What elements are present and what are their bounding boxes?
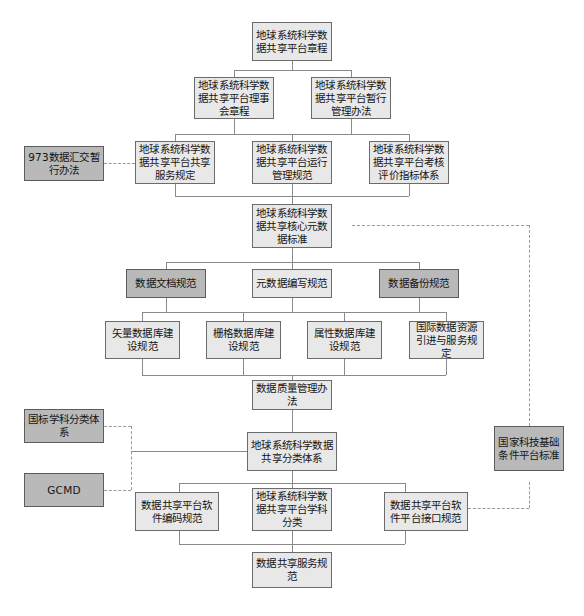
node-platform-discipline-classification[interactable]: 地球系统科学数据共享平台学科分类 (252, 488, 332, 531)
connector-to-n6 (292, 134, 293, 141)
connector-bus-level6 (142, 312, 446, 313)
node-raster-database-spec[interactable]: 栅格数据库建设规范 (206, 321, 281, 359)
connector-to-n13 (243, 312, 244, 321)
connector-bus-level2 (234, 70, 351, 71)
connector-dashed-n17 (104, 426, 131, 427)
node-label: 数据共享平台软件平台接口规范 (385, 499, 467, 525)
node-label: 地球系统科学数据共享平台暂行管理办法 (312, 79, 390, 118)
connector-dashed-n8-rail (352, 225, 529, 226)
connector-into-n8 (292, 196, 293, 204)
node-label: 地球系统科学数据共享平台理事会章程 (195, 79, 273, 118)
node-label: 地球系统科学数据共享核心元数据标准 (253, 207, 331, 246)
node-data-document-spec[interactable]: 数据文档规范 (126, 269, 206, 298)
connector-n5-down (175, 184, 176, 196)
node-label: 地球系统科学数据共享分类体系 (248, 439, 336, 465)
connector-bus-to-n16 (142, 375, 446, 376)
connector-n15-down (446, 359, 447, 375)
node-software-interface-spec[interactable]: 数据共享平台软件平台接口规范 (384, 492, 468, 531)
connector-into-n24 (292, 544, 293, 552)
node-label: 数据质量管理办法 (253, 382, 331, 408)
connector-to-n2 (234, 70, 235, 77)
connector-n16-down (292, 410, 293, 432)
connector-to-n12 (142, 312, 143, 321)
connector-n22-down (292, 531, 293, 544)
flowchart-canvas: 地球系统科学数据共享平台章程 地球系统科学数据共享平台理事会章程 地球系统科学数… (0, 0, 584, 616)
connector-dashed-bracket (131, 426, 132, 490)
connector-dashed-n4-n5 (104, 163, 135, 164)
node-sharing-service-rules[interactable]: 地球系统科学数据共享平台共享服务规定 (135, 141, 215, 184)
connector-n1-down (292, 61, 293, 70)
node-assessment-indicator-system[interactable]: 地球系统科学数据共享平台考核评价指标体系 (369, 141, 449, 184)
connector-bracket-to-n19 (131, 451, 247, 452)
connector-to-n7 (409, 134, 410, 141)
node-platform-charter[interactable]: 地球系统科学数据共享平台章程 (252, 22, 332, 61)
connector-n3-down (351, 119, 352, 134)
node-label: 国标学科分类体系 (25, 413, 103, 439)
node-international-data-resource-spec[interactable]: 国际数据资源引进与服务规定 (409, 321, 484, 359)
connector-to-n5 (175, 134, 176, 141)
node-national-discipline-classification[interactable]: 国标学科分类体系 (24, 409, 104, 443)
connector-to-n10 (292, 262, 293, 269)
node-label: 国际数据资源引进与服务规定 (410, 321, 483, 360)
node-label: 属性数据库建设规范 (308, 327, 381, 353)
connector-n14-down (344, 359, 345, 375)
node-gcmd[interactable]: GCMD (24, 473, 104, 507)
node-sharing-classification-system[interactable]: 地球系统科学数据共享分类体系 (247, 432, 337, 471)
connector-dashed-right-rail-lower (529, 482, 530, 508)
connector-n23-down (405, 531, 406, 544)
connector-to-n9 (166, 262, 167, 269)
node-software-coding-spec[interactable]: 数据共享平台软件编码规范 (135, 492, 219, 531)
node-label: 地球系统科学数据共享平台共享服务规定 (136, 143, 214, 182)
connector-n10-down (292, 298, 293, 312)
connector-dashed-rail-n23 (468, 508, 529, 509)
connector-to-n3 (351, 70, 352, 77)
connector-n6-down (292, 184, 293, 196)
connector-n19-down (292, 471, 293, 483)
node-data-backup-spec[interactable]: 数据备份规范 (379, 269, 459, 298)
connector-to-n23 (405, 483, 406, 492)
node-label: 地球系统科学数据共享平台学科分类 (253, 490, 331, 529)
node-label: 数据文档规范 (127, 277, 205, 290)
connector-dashed-right-rail-upper (529, 225, 530, 436)
node-label: 973数据汇交暂行办法 (25, 151, 103, 177)
connector-n9-down (166, 298, 167, 312)
node-operation-management-spec[interactable]: 地球系统科学数据共享平台运行管理规范 (252, 141, 332, 184)
connector-to-n21 (179, 483, 180, 492)
node-label: 数据备份规范 (380, 277, 458, 290)
connector-n8-down (292, 248, 293, 262)
connector-n12-down (142, 359, 143, 375)
node-core-metadata-standard[interactable]: 地球系统科学数据共享核心元数据标准 (252, 204, 332, 248)
node-vector-database-spec[interactable]: 矢量数据库建设规范 (105, 321, 180, 359)
node-data-quality-management[interactable]: 数据质量管理办法 (252, 380, 332, 410)
node-metadata-writing-spec[interactable]: 元数据编写规范 (252, 269, 332, 298)
node-council-charter[interactable]: 地球系统科学数据共享平台理事会章程 (194, 77, 274, 119)
connector-to-n14 (344, 312, 345, 321)
connector-n11-down (419, 298, 420, 312)
node-label: 地球系统科学数据共享平台章程 (253, 29, 331, 55)
node-label: 栅格数据库建设规范 (207, 327, 280, 353)
connector-dashed-n18 (104, 490, 131, 491)
node-interim-management[interactable]: 地球系统科学数据共享平台暂行管理办法 (311, 77, 391, 119)
node-label: 元数据编写规范 (253, 277, 331, 290)
node-label: GCMD (25, 484, 103, 497)
connector-n21-down (179, 531, 180, 544)
node-label: 数据共享服务规范 (253, 557, 331, 583)
node-label: 地球系统科学数据共享平台运行管理规范 (253, 143, 331, 182)
node-label: 国家科技基础条件平台标准 (495, 436, 563, 462)
connector-to-n11 (419, 262, 420, 269)
node-label: 数据共享平台软件编码规范 (136, 499, 218, 525)
node-attribute-database-spec[interactable]: 属性数据库建设规范 (307, 321, 382, 359)
node-national-platform-standard[interactable]: 国家科技基础条件平台标准 (494, 426, 564, 471)
node-973-interim-measures[interactable]: 973数据汇交暂行办法 (24, 146, 104, 181)
connector-n2-down (234, 119, 235, 134)
node-label: 矢量数据库建设规范 (106, 327, 179, 353)
connector-n13-down (243, 359, 244, 375)
node-data-sharing-service-spec[interactable]: 数据共享服务规范 (252, 552, 332, 588)
node-label: 地球系统科学数据共享平台考核评价指标体系 (370, 143, 448, 182)
connector-n7-down (409, 184, 410, 196)
